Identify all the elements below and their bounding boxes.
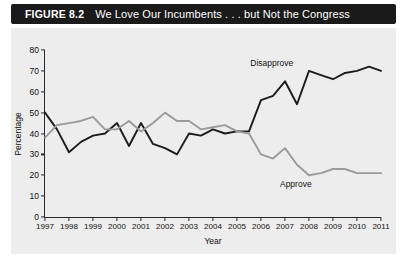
x-tick-label: 2001 [132,222,150,231]
series-line-disapprove [45,67,381,155]
y-tick-label: 20 [30,170,39,180]
x-tick-mark [332,217,333,221]
x-tick-mark [188,217,189,221]
x-tick-label: 2011 [372,222,389,231]
x-tick-mark [92,217,93,221]
x-tick-label: 1997 [36,222,54,231]
x-axis-label: Year [204,236,221,246]
x-tick-mark [260,217,261,221]
figure-container: FIGURE 8.2 We Love Our Incumbents . . . … [0,0,404,262]
figure-number: FIGURE 8.2 [25,8,84,20]
x-tick-label: 1998 [60,222,78,231]
y-tick-label: 50 [30,108,39,118]
x-tick-mark [284,217,285,221]
x-tick-label: 1999 [84,222,102,231]
x-tick-mark [356,217,357,221]
x-tick-label: 2010 [348,222,366,231]
series-line-approve [45,113,381,176]
y-tick-label: 80 [30,45,39,55]
y-axis-label: Percentage [13,112,23,155]
series-annotation-approve: Approve [280,179,312,189]
x-tick-label: 2007 [276,222,294,231]
x-tick-mark [308,217,309,221]
data-series-layer [45,50,381,217]
x-tick-label: 2003 [180,222,198,231]
y-tick-label: 10 [30,191,39,201]
x-tick-mark [68,217,69,221]
plot-frame: Percentage Year 01020304050607080 199719… [11,28,396,254]
plot-area: Percentage Year 01020304050607080 199719… [44,50,381,218]
y-tick-label: 40 [30,129,39,139]
figure-title-bar: FIGURE 8.2 We Love Our Incumbents . . . … [11,4,396,24]
x-tick-mark [140,217,141,221]
x-tick-label: 2002 [156,222,174,231]
x-tick-label: 2008 [300,222,318,231]
figure-title: We Love Our Incumbents . . . but Not the… [95,8,350,20]
x-tick-mark [236,217,237,221]
x-tick-label: 2005 [228,222,246,231]
x-tick-mark [44,217,45,221]
series-annotation-disapprove: Disapprove [250,58,293,68]
x-tick-mark [116,217,117,221]
y-tick-label: 60 [30,87,39,97]
x-tick-label: 2000 [108,222,126,231]
x-tick-label: 2009 [324,222,342,231]
y-tick-label: 0 [34,212,39,222]
y-tick-label: 70 [30,66,39,76]
x-tick-mark [212,217,213,221]
x-tick-mark [380,217,381,221]
x-tick-mark [164,217,165,221]
x-tick-label: 2004 [204,222,222,231]
y-tick-label: 30 [30,149,39,159]
x-tick-label: 2006 [252,222,270,231]
